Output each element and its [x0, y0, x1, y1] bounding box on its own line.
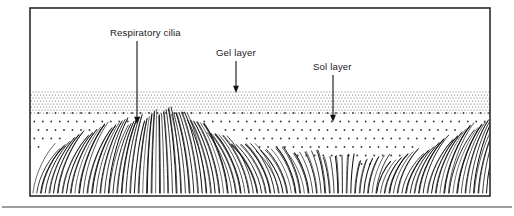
label-gel-layer-text: Gel layer [216, 47, 256, 58]
figure-canvas: Respiratory ciliaGel layerSol layer [0, 0, 514, 216]
label-sol-layer-text: Sol layer [313, 61, 352, 72]
label-respiratory-cilia-text: Respiratory cilia [110, 27, 181, 38]
figure-frame-background [30, 8, 490, 196]
respiratory-cilia-figure: Respiratory ciliaGel layerSol layer [0, 0, 514, 216]
